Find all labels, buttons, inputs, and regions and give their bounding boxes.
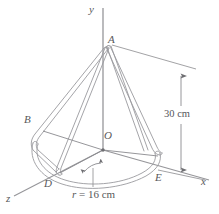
axis-label-z: z: [6, 193, 10, 204]
dimension-label-height: 30 cm: [164, 109, 190, 120]
origin-dot: [101, 148, 104, 151]
point-label-b: B: [24, 114, 31, 125]
radius-lines: [43, 131, 158, 173]
generator-tube-AD: [56, 47, 109, 176]
extension-line-top: [112, 45, 196, 69]
height-dimension: [112, 45, 205, 180]
point-label-e: E: [155, 172, 162, 183]
point-label-o: O: [104, 130, 112, 141]
dimension-label-radius: r = 16 cm: [72, 189, 115, 200]
extension-line-bottom: [158, 170, 205, 180]
generator-tube-AE: [106, 45, 162, 155]
wire-frame: [31, 45, 162, 188]
axis-label-y: y: [89, 4, 94, 15]
radius-line-OE: [103, 150, 158, 156]
radius-arc-annotation: [84, 163, 101, 187]
point-label-d: D: [44, 178, 52, 189]
radius-line-OB: [43, 131, 103, 150]
figure-canvas: y x z A B O D E 30 cm r = 16 cm: [0, 0, 219, 214]
radius-value: = 16 cm: [76, 188, 115, 200]
point-label-a: A: [108, 34, 115, 45]
axis-label-x: x: [201, 176, 206, 187]
